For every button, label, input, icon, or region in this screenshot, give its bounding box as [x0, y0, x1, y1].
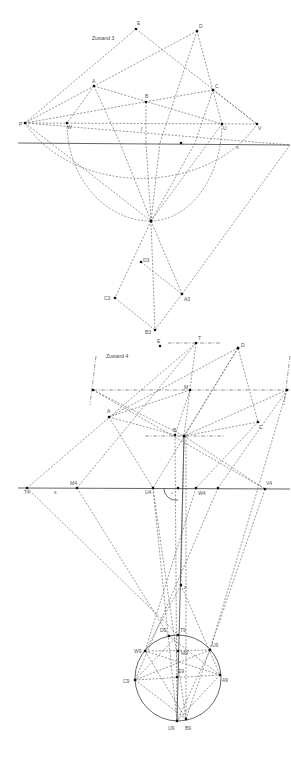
svg-text:M: M	[184, 384, 188, 390]
svg-text:z: z	[184, 584, 187, 590]
svg-text:W: W	[67, 124, 72, 130]
svg-text:T9: T9	[180, 627, 186, 633]
right-angle-marker	[164, 488, 178, 500]
point-F	[150, 220, 153, 223]
svg-text:A: A	[107, 408, 111, 414]
point-Z	[180, 584, 183, 587]
svg-text:U4: U4	[145, 489, 152, 495]
diagram-zustand-4: Zustand 4	[18, 335, 291, 731]
svg-text:V: V	[258, 125, 262, 131]
point-V-right	[286, 389, 289, 392]
points	[24, 28, 259, 332]
svg-text:U9: U9	[212, 642, 219, 648]
point-A9	[219, 674, 222, 677]
point-V4	[264, 488, 267, 491]
svg-text:V4: V4	[266, 480, 272, 486]
point-E	[135, 28, 138, 31]
point-M	[189, 389, 192, 392]
point-D	[237, 347, 240, 350]
point-X	[177, 487, 180, 490]
svg-text:D3: D3	[143, 257, 150, 263]
svg-text:T: T	[198, 335, 201, 341]
point-D9	[168, 635, 171, 638]
svg-text:s: s	[54, 489, 57, 495]
svg-text:W9: W9	[134, 648, 142, 654]
point-B	[145, 101, 148, 104]
svg-text:E: E	[157, 338, 161, 344]
svg-text:A3: A3	[184, 296, 190, 302]
svg-text:D: D	[199, 23, 203, 29]
diagram-title: Zustand 3	[92, 35, 114, 41]
svg-text:C: C	[215, 83, 219, 89]
svg-text:D9: D9	[160, 627, 167, 633]
svg-text:C: C	[259, 424, 263, 430]
svg-text:U9: U9	[168, 725, 175, 731]
construction-lines	[25, 29, 290, 330]
point-E	[159, 345, 162, 348]
svg-text:E9: E9	[178, 668, 184, 674]
point-W9	[144, 650, 147, 653]
construction-arcs	[25, 123, 257, 221]
point-M4	[76, 487, 79, 490]
point-B9	[185, 718, 188, 721]
point-U9	[209, 649, 212, 652]
point-M2	[183, 435, 186, 438]
svg-text:C9: C9	[123, 678, 130, 684]
point-D	[196, 30, 199, 33]
svg-text:P: P	[19, 121, 23, 127]
labels: E T D M A B C M4 T4 s U4 W4 V4 z D9 T9 W…	[24, 335, 272, 731]
point-E9	[176, 676, 179, 679]
point-C	[212, 89, 215, 92]
svg-text:T4: T4	[24, 489, 30, 495]
point-A	[93, 85, 96, 88]
diagram-zustand-3: Zustand 3	[18, 20, 290, 335]
svg-text:E: E	[137, 20, 141, 26]
point-U9-bottom	[176, 720, 179, 723]
perspective-construction-diagram: Zustand 3	[0, 0, 291, 758]
svg-text:U: U	[223, 125, 227, 131]
svg-text:f: f	[141, 126, 143, 132]
point-M9	[177, 650, 180, 653]
svg-text:M4: M4	[70, 480, 77, 486]
point-B3	[154, 329, 157, 332]
svg-text:W4: W4	[198, 490, 206, 496]
point-A	[108, 416, 111, 419]
svg-text:B3: B3	[145, 329, 151, 335]
point-U4	[152, 487, 155, 490]
point-Y	[217, 487, 220, 490]
points	[26, 342, 289, 723]
svg-text:B: B	[145, 93, 149, 99]
svg-text:A: A	[92, 78, 96, 84]
point-C	[257, 421, 260, 424]
point-A3	[181, 293, 184, 296]
labels: E D A B C P W f U V s C3 D3 A3 B3	[19, 20, 262, 335]
point-T9	[177, 634, 180, 637]
point-W4	[195, 487, 198, 490]
diagram-title: Zustand 4	[106, 353, 128, 359]
point-C9	[134, 679, 137, 682]
svg-text:C3: C3	[104, 295, 111, 301]
point-P	[24, 122, 27, 125]
svg-text:A9: A9	[222, 677, 228, 683]
svg-text:B9: B9	[185, 725, 191, 731]
trace-line-s	[18, 143, 290, 145]
axis-line	[177, 436, 184, 721]
svg-text:D: D	[241, 342, 245, 348]
svg-text:M9: M9	[181, 650, 188, 656]
point-B	[174, 434, 177, 437]
point-C3	[114, 297, 117, 300]
point-V	[92, 389, 95, 392]
construction-lines	[27, 343, 287, 721]
point-S	[180, 142, 183, 145]
point-D3	[140, 261, 143, 264]
point-T	[195, 342, 198, 345]
